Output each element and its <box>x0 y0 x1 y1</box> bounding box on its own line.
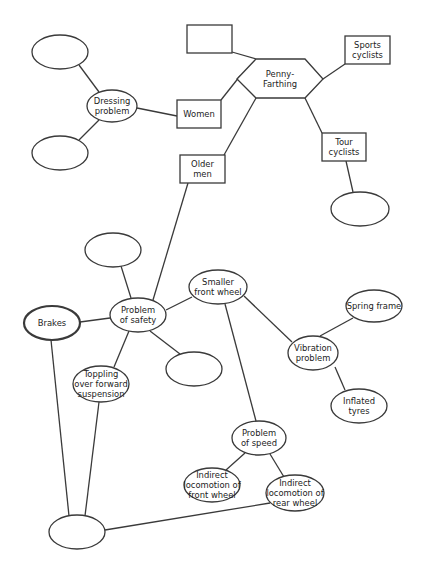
node-label: front wheel <box>188 490 235 500</box>
node-smaller-front-wheel: Smallerfront wheel <box>189 270 247 304</box>
node-problem-of-speed: Problemof speed <box>232 421 286 455</box>
node-label: Farthing <box>263 79 297 89</box>
node-dressing-problem: Dressingproblem <box>87 90 137 122</box>
node-label: Vibration <box>294 343 332 353</box>
node-older-men: Oldermen <box>180 155 225 183</box>
node-label: Smaller <box>202 277 234 287</box>
node-brakes: Brakes <box>24 306 80 340</box>
node-empty-below-safety <box>166 352 222 386</box>
ellipse-shape <box>331 192 389 226</box>
node-label: Indirect <box>279 478 311 488</box>
node-label: cyclists <box>352 50 383 60</box>
node-label: Problem <box>242 428 276 438</box>
ellipse-shape <box>166 352 222 386</box>
ellipse-shape <box>32 136 88 170</box>
node-tour-cyclists: Tourcyclists <box>322 133 366 161</box>
node-label: of safety <box>120 315 157 325</box>
node-label: rear wheel <box>273 498 317 508</box>
ellipse-shape <box>85 233 141 267</box>
node-spring-frame: Spring frame <box>346 290 402 322</box>
node-problem-of-safety: Problemof safety <box>110 298 166 332</box>
node-toppling: Topplingover forwardsuspension <box>73 366 129 402</box>
ellipse-shape <box>49 515 105 549</box>
node-women: Women <box>177 100 221 128</box>
node-label: Penny- <box>266 69 294 79</box>
node-label: problem <box>95 106 130 116</box>
node-label: of speed <box>241 438 277 448</box>
node-label: tyres <box>348 406 369 416</box>
node-sports-cyclists: Sportscyclists <box>345 36 390 64</box>
node-empty-top-left <box>32 35 88 69</box>
node-label: Inflated <box>343 396 375 406</box>
node-label: Toppling <box>83 369 119 379</box>
node-empty-mid-left <box>32 136 88 170</box>
node-label: Dressing <box>94 96 131 106</box>
node-indirect-front: Indirectlocomotion offront wheel <box>183 468 241 502</box>
node-indirect-rear: Indirectlocomotion ofrear wheel <box>266 475 325 511</box>
node-empty-tour <box>331 192 389 226</box>
ellipse-shape <box>32 35 88 69</box>
node-inflated-tyres: Inflatedtyres <box>331 389 387 423</box>
node-label: suspension <box>78 389 125 399</box>
node-label: Women <box>183 109 215 119</box>
node-penny-farthing: Penny-Farthing <box>237 59 323 98</box>
node-label: problem <box>296 353 331 363</box>
node-label: Indirect <box>196 470 228 480</box>
node-label: Problem <box>121 305 155 315</box>
penny-farthing-concept-map: DressingproblemWomenPenny-FarthingSports… <box>0 0 424 576</box>
node-label: Spring frame <box>347 301 402 311</box>
node-label: locomotion of <box>266 488 324 498</box>
node-vibration-problem: Vibrationproblem <box>288 336 338 370</box>
node-label: men <box>193 169 212 179</box>
rect-shape <box>187 25 232 53</box>
node-empty-top-rect <box>187 25 232 53</box>
node-empty-above-safety <box>85 233 141 267</box>
node-label: Brakes <box>38 318 66 328</box>
node-label: Tour <box>334 137 353 147</box>
node-empty-bottom <box>49 515 105 549</box>
node-label: front wheel <box>194 287 241 297</box>
node-label: Sports <box>354 40 381 50</box>
node-label: locomotion of <box>183 480 241 490</box>
node-label: over forward <box>74 379 127 389</box>
node-label: Older <box>191 159 214 169</box>
node-label: cyclists <box>329 147 360 157</box>
